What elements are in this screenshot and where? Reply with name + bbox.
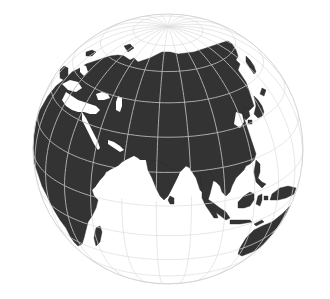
land-maluku <box>264 196 268 200</box>
globe-map <box>0 0 330 299</box>
map-canvas <box>0 0 330 299</box>
